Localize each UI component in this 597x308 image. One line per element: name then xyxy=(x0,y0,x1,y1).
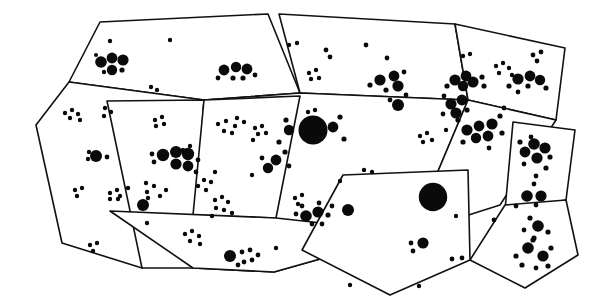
data-point-dot xyxy=(513,253,518,258)
figure-root: Polygonal survey regions with clustered … xyxy=(0,0,597,308)
data-point-dot xyxy=(535,190,546,201)
data-point-dot xyxy=(417,284,421,288)
data-point-dot xyxy=(296,202,300,206)
data-point-dot xyxy=(181,148,185,152)
data-point-dot xyxy=(467,76,478,87)
data-point-dot xyxy=(250,258,255,263)
data-point-dot xyxy=(264,131,268,135)
data-point-dot xyxy=(197,234,201,238)
data-point-dot xyxy=(425,131,429,135)
data-point-dot xyxy=(137,199,149,211)
data-point-dot xyxy=(383,87,388,92)
data-point-dot xyxy=(150,152,155,157)
data-point-dot xyxy=(543,165,548,170)
data-point-dot xyxy=(532,182,537,187)
data-point-dot xyxy=(216,122,220,126)
data-point-dot xyxy=(325,212,330,217)
data-point-dot xyxy=(293,196,297,200)
data-point-dot xyxy=(157,149,169,161)
data-point-dot xyxy=(164,188,168,192)
data-point-dot xyxy=(294,212,299,217)
data-point-dot xyxy=(300,204,305,209)
data-point-dot xyxy=(314,68,318,72)
data-point-dot xyxy=(310,222,315,227)
data-point-dot xyxy=(385,56,390,61)
data-point-dot xyxy=(531,152,542,163)
data-point-dot xyxy=(545,263,550,268)
data-point-dot xyxy=(198,242,202,246)
data-point-dot xyxy=(535,59,540,64)
data-point-dot xyxy=(80,186,84,190)
data-point-dot xyxy=(183,161,194,172)
data-point-dot xyxy=(444,83,449,88)
data-point-dot xyxy=(126,186,130,190)
data-point-dot xyxy=(119,67,124,72)
data-point-dot xyxy=(317,76,321,80)
data-point-dot xyxy=(250,173,254,177)
data-point-dot xyxy=(521,190,533,202)
data-point-dot xyxy=(117,54,128,65)
data-point-dot xyxy=(107,65,117,75)
data-point-dot xyxy=(103,106,107,110)
data-point-dot xyxy=(282,149,287,154)
data-point-dot xyxy=(450,257,455,262)
data-point-dot xyxy=(162,122,166,126)
data-point-dot xyxy=(287,43,291,47)
data-point-dot xyxy=(362,168,366,172)
data-point-dot xyxy=(248,248,253,253)
data-point-dot xyxy=(409,241,414,246)
data-point-dot xyxy=(458,81,468,91)
data-point-dot xyxy=(512,73,523,84)
data-point-dot xyxy=(214,206,218,210)
data-point-dot xyxy=(417,237,428,248)
data-point-dot xyxy=(209,180,213,184)
data-point-dot xyxy=(492,218,497,223)
data-point-dot xyxy=(188,239,192,243)
data-point-dot xyxy=(312,206,323,217)
data-point-dot xyxy=(105,155,110,160)
data-point-dot xyxy=(295,41,299,45)
data-point-dot xyxy=(455,117,460,122)
data-point-dot xyxy=(145,221,149,225)
data-point-dot xyxy=(348,283,352,287)
data-point-dot xyxy=(240,75,245,80)
data-point-dot xyxy=(274,246,278,250)
polygon-dot-diagram xyxy=(0,0,597,308)
data-point-dot xyxy=(535,75,545,85)
data-point-dot xyxy=(88,243,92,247)
data-point-dot xyxy=(68,116,72,120)
data-point-dot xyxy=(253,73,258,78)
data-point-dot xyxy=(260,124,264,128)
data-point-dot xyxy=(514,204,519,209)
data-point-dot xyxy=(545,229,550,234)
data-point-dot xyxy=(160,115,164,119)
data-point-dot xyxy=(95,241,99,245)
data-point-dot xyxy=(497,113,502,118)
data-point-dot xyxy=(534,203,539,208)
data-point-dot xyxy=(487,146,492,151)
data-point-dot xyxy=(534,174,539,179)
data-point-dot xyxy=(522,228,527,233)
data-point-dot xyxy=(109,110,113,114)
data-point-dot xyxy=(213,170,217,174)
data-point-dot xyxy=(506,83,511,88)
data-point-dot xyxy=(242,120,246,124)
data-point-dot xyxy=(341,136,346,141)
data-point-dot xyxy=(168,38,172,42)
data-point-dot xyxy=(108,197,112,201)
data-point-dot xyxy=(233,124,237,128)
data-point-dot xyxy=(118,194,122,198)
data-point-dot xyxy=(196,184,200,188)
data-point-dot xyxy=(324,48,329,53)
data-point-dot xyxy=(108,39,112,43)
data-point-dot xyxy=(307,71,311,75)
data-point-dot xyxy=(256,253,261,258)
data-point-dot xyxy=(158,194,162,198)
data-point-dot xyxy=(389,71,400,82)
data-point-dot xyxy=(220,195,224,199)
data-point-dot xyxy=(90,150,102,162)
data-point-dot xyxy=(392,80,403,91)
data-point-dot xyxy=(338,179,342,183)
data-point-dot xyxy=(256,132,260,136)
data-point-dot xyxy=(404,93,409,98)
